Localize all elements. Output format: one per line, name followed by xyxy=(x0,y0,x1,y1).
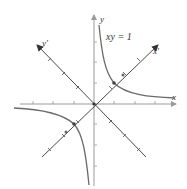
x-prime-axis-label: x′ xyxy=(152,46,160,56)
x-axis-label: x xyxy=(171,92,176,102)
vertex-point-upper xyxy=(112,81,116,85)
focus-marker-lower xyxy=(65,131,68,134)
x-prime-axis xyxy=(42,45,158,157)
hyperbola-branch-lower-left xyxy=(14,108,89,185)
vertex-point-lower xyxy=(72,122,76,126)
y-axis-label: y xyxy=(99,14,104,24)
origin-point xyxy=(92,102,95,105)
focus-marker-upper xyxy=(122,74,125,77)
hyperbola-diagram: x y x′ xyxy=(0,0,187,189)
y-axis xyxy=(94,15,97,186)
equation-label: xy = 1 xyxy=(105,31,132,42)
y-prime-axis-label: y′ xyxy=(41,38,49,48)
